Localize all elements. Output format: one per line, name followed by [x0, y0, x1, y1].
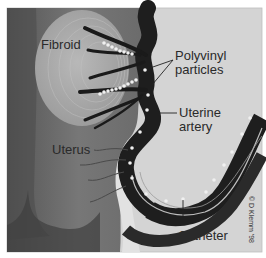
uterus-label: Uterus — [52, 143, 90, 157]
uterine-embolization-illustration — [0, 0, 266, 258]
fibroid-label: Fibroid — [41, 38, 81, 52]
catheter-label: Catheter — [178, 229, 228, 243]
polyvinyl-label-line1: Polyvinyl — [175, 49, 226, 63]
uterine-artery-label-line1: Uterine — [179, 106, 221, 120]
uterine-artery-label-line2: artery — [179, 120, 212, 134]
polyvinyl-label-line2: particles — [175, 63, 223, 77]
copyright-text: © D Klemm '98 — [248, 196, 255, 243]
